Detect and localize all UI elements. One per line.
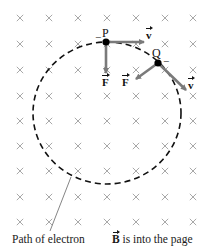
field-x-marker bbox=[17, 93, 23, 99]
charge-sign-q: − bbox=[163, 55, 169, 67]
velocity-arrow-q bbox=[158, 63, 186, 90]
field-x-marker bbox=[133, 143, 139, 149]
field-x-marker bbox=[17, 194, 23, 200]
field-x-marker bbox=[75, 67, 81, 73]
field-x-marker bbox=[162, 41, 168, 47]
field-x-marker bbox=[190, 118, 196, 124]
field-x-marker bbox=[190, 41, 196, 47]
field-x-marker bbox=[17, 15, 23, 21]
field-symbol-b: B bbox=[112, 232, 120, 246]
field-x-marker bbox=[162, 93, 168, 99]
field-x-marker bbox=[46, 41, 52, 47]
field-x-marker bbox=[46, 194, 52, 200]
field-x-marker bbox=[46, 168, 52, 174]
field-x-marker bbox=[133, 67, 139, 73]
field-x-marker bbox=[46, 143, 52, 149]
field-x-marker bbox=[17, 118, 23, 124]
velocity-label-p: v bbox=[146, 29, 152, 41]
field-x-marker bbox=[162, 168, 168, 174]
field-x-marker bbox=[46, 118, 52, 124]
field-x-marker bbox=[162, 219, 168, 225]
field-x-marker bbox=[133, 15, 139, 21]
field-x-marker bbox=[17, 219, 23, 225]
field-x-marker bbox=[162, 15, 168, 21]
field-x-marker bbox=[17, 41, 23, 47]
field-x-marker bbox=[190, 15, 196, 21]
field-x-marker bbox=[104, 143, 110, 149]
field-x-marker bbox=[133, 219, 139, 225]
velocity-label-q: v bbox=[188, 79, 194, 91]
field-x-marker bbox=[75, 219, 81, 225]
field-x-marker bbox=[133, 168, 139, 174]
charge-sign-p: − bbox=[95, 31, 101, 43]
field-x-marker bbox=[17, 67, 23, 73]
field-x-marker bbox=[190, 143, 196, 149]
path-leader-line bbox=[50, 177, 71, 231]
field-x-marker bbox=[75, 15, 81, 21]
field-x-marker bbox=[104, 15, 110, 21]
field-x-marker bbox=[46, 219, 52, 225]
point-q-label: Q bbox=[152, 47, 161, 59]
field-x-marker bbox=[133, 93, 139, 99]
field-x-marker bbox=[75, 118, 81, 124]
point-p-label: P bbox=[102, 27, 109, 39]
field-x-marker bbox=[133, 194, 139, 200]
field-x-marker bbox=[75, 93, 81, 99]
field-x-marker bbox=[190, 67, 196, 73]
field-x-marker bbox=[190, 194, 196, 200]
field-x-marker bbox=[104, 194, 110, 200]
field-x-marker bbox=[75, 143, 81, 149]
field-x-marker bbox=[104, 93, 110, 99]
field-x-marker bbox=[162, 194, 168, 200]
field-x-marker bbox=[75, 194, 81, 200]
field-x-marker bbox=[190, 93, 196, 99]
force-arrow-q bbox=[136, 63, 158, 79]
field-x-marker bbox=[104, 118, 110, 124]
field-caption-text: is into the page bbox=[120, 233, 193, 245]
path-of-electron-caption: Path of electron bbox=[12, 232, 85, 246]
field-x-marker bbox=[75, 168, 81, 174]
field-x-marker bbox=[17, 168, 23, 174]
field-x-marker bbox=[104, 219, 110, 225]
electron-dot-q bbox=[154, 59, 161, 66]
field-x-marker bbox=[190, 168, 196, 174]
field-x-marker bbox=[162, 118, 168, 124]
field-direction-caption: B is into the page bbox=[112, 232, 193, 246]
field-x-marker bbox=[46, 93, 52, 99]
force-label-p: F bbox=[102, 76, 109, 88]
field-x-marker bbox=[104, 168, 110, 174]
field-x-marker bbox=[17, 143, 23, 149]
field-x-marker bbox=[46, 15, 52, 21]
field-x-marker bbox=[133, 118, 139, 124]
force-label-q: F bbox=[122, 76, 129, 88]
field-x-marker bbox=[162, 143, 168, 149]
field-x-marker bbox=[190, 219, 196, 225]
